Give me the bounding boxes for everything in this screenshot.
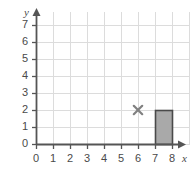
x-tick-label: 7 [148, 153, 162, 164]
x-tick-label: 4 [97, 153, 111, 164]
x-tick-label: 1 [46, 153, 60, 164]
y-tick-label: 1 [16, 121, 28, 132]
y-axis-arrow [33, 8, 41, 16]
x-tick-label: 5 [114, 153, 128, 164]
y-tick-label: 0 [16, 138, 28, 149]
plot-canvas [0, 0, 195, 171]
x-tick-label: 2 [63, 153, 77, 164]
x-tick-label: 0 [29, 153, 43, 164]
y-tick-label: 2 [16, 104, 28, 115]
y-tick-label: 7 [16, 19, 28, 30]
x-axis-arrow [178, 141, 186, 149]
x-tick-label: 8 [165, 153, 179, 164]
x-tick-label: 6 [131, 153, 145, 164]
x-axis-label: x [182, 153, 187, 164]
y-tick-label: 3 [16, 87, 28, 98]
y-axis-label: y [24, 7, 29, 18]
y-tick-label: 6 [16, 36, 28, 47]
coordinate-grid-figure: 012345678 01234567 x y [0, 0, 195, 171]
y-tick-label: 5 [16, 53, 28, 64]
shaded-rectangle [156, 111, 173, 145]
y-tick-label: 4 [16, 70, 28, 81]
data-shapes [156, 111, 173, 145]
x-tick-label: 3 [80, 153, 94, 164]
